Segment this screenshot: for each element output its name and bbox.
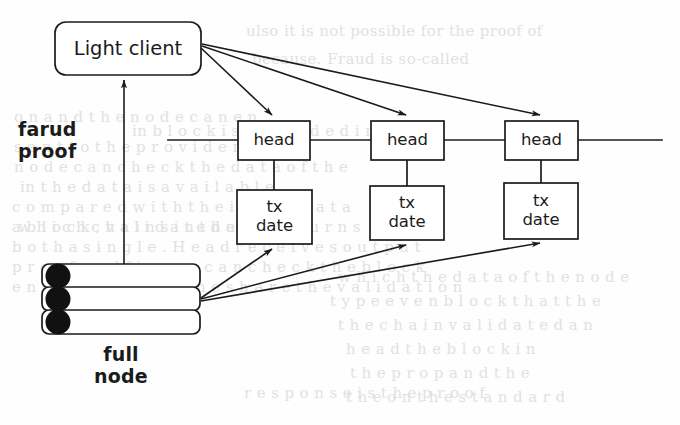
light-client-label: Light client bbox=[55, 37, 201, 60]
full-node-to-tx-3 bbox=[201, 243, 540, 301]
head-label-2: head bbox=[371, 130, 444, 149]
full-node-disc-1 bbox=[46, 264, 71, 289]
fraud-proof-label: farud proof bbox=[18, 118, 118, 163]
full-node-disc-2 bbox=[46, 287, 71, 312]
tx-date-label-3: tx date bbox=[504, 191, 578, 230]
tx-date-label-1: tx date bbox=[237, 197, 312, 236]
full-node-to-tx-2 bbox=[201, 245, 406, 299]
light-client-to-head-3 bbox=[202, 44, 540, 115]
tx-date-label-2: tx date bbox=[370, 193, 444, 232]
full-node-discs bbox=[46, 264, 71, 335]
figure-canvas: ulso it is not possible for the proof of… bbox=[0, 0, 680, 425]
head-label-1: head bbox=[238, 130, 310, 149]
head-label-3: head bbox=[505, 130, 578, 149]
full-node-label: full node bbox=[42, 343, 200, 388]
full-node-disc-3 bbox=[46, 310, 71, 335]
